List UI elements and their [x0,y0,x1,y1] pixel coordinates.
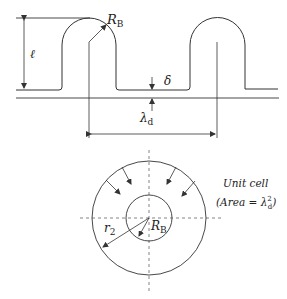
outer-radius-label: r2 [104,221,115,237]
gap-label: δ [164,74,171,88]
length-label: ℓ [30,47,35,61]
inward-arrow-4 [182,181,195,196]
inward-arrow-3 [167,167,176,184]
inward-arrow-2 [122,167,131,184]
unit-cell-title: Unit cell [223,177,268,189]
diagram-canvas: ℓ RB δ λd r2 [0,0,287,299]
spacing-label: λd [139,111,154,127]
bump-profile [16,18,278,91]
unit-cell-area: (Area = λ2d) [216,195,276,211]
unit-cell-diagram: r2 RB Unit cell (Area = λ2d) [80,150,276,292]
bubble-radius-arrow [89,25,106,42]
dendrite-profile-diagram: ℓ RB δ λd [16,12,279,138]
inner-radius-label: RB [150,219,167,235]
inward-arrow-1 [106,180,120,194]
bubble-radius-label: RB [106,12,124,29]
